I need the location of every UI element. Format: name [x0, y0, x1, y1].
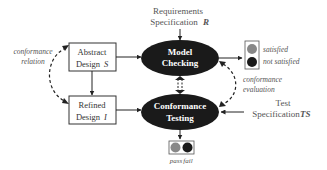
- svg-text:TS: TS: [300, 109, 311, 119]
- svg-text:evaluation: evaluation: [243, 85, 275, 94]
- svg-text:Design: Design: [76, 59, 101, 69]
- model-checking-node: Model Checking: [141, 40, 219, 76]
- svg-text:Refined: Refined: [79, 100, 107, 110]
- mc-result-indicator: satisfied not satisfied: [245, 41, 300, 69]
- svg-text:conformance: conformance: [243, 75, 283, 84]
- svg-text:Testing: Testing: [166, 113, 194, 123]
- svg-text:Checking: Checking: [162, 58, 199, 68]
- refined-design-box: Refined Design I: [69, 96, 116, 124]
- test-specification-label: Test Specification TS: [252, 98, 310, 119]
- svg-text:R: R: [202, 17, 209, 27]
- svg-text:conformance: conformance: [13, 47, 53, 56]
- svg-text:Model: Model: [168, 47, 193, 57]
- diagram-canvas: Requirements Specification R Abstract De…: [0, 0, 327, 170]
- svg-text:Test: Test: [276, 98, 291, 108]
- svg-text:Abstract: Abstract: [78, 47, 107, 57]
- svg-text:Conformance: Conformance: [154, 101, 207, 111]
- abstract-design-box: Abstract Design S: [69, 43, 116, 71]
- svg-text:pass: pass: [169, 157, 183, 165]
- svg-text:not satisfied: not satisfied: [263, 57, 300, 66]
- conformance-relation-curve: [49, 48, 66, 102]
- conformance-relation-label: conformance relation: [13, 47, 53, 66]
- conformance-testing-node: Conformance Testing: [141, 94, 219, 130]
- svg-text:satisfied: satisfied: [263, 45, 288, 54]
- svg-text:Specification: Specification: [150, 17, 198, 27]
- svg-text:Specification: Specification: [252, 109, 300, 119]
- requirements-specification-label: Requirements Specification R: [150, 6, 209, 27]
- conformance-evaluation-label: conformance evaluation: [243, 75, 283, 94]
- svg-text:fail: fail: [183, 157, 192, 165]
- ct-result-indicator: pass fail: [169, 141, 194, 165]
- svg-text:Requirements: Requirements: [153, 6, 203, 16]
- conformance-evaluation-curve: [223, 64, 236, 104]
- svg-text:relation: relation: [21, 57, 45, 66]
- svg-text:Design: Design: [76, 112, 101, 122]
- arrow-mc-ct-bidirectional: [175, 76, 185, 94]
